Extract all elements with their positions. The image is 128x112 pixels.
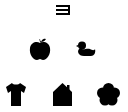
tumbling-e-icon <box>56 5 70 15</box>
flower-icon <box>97 83 120 106</box>
apple-icon <box>29 37 51 61</box>
house-icon <box>53 83 72 106</box>
shirt-icon <box>6 83 26 106</box>
duck-icon <box>76 41 96 57</box>
